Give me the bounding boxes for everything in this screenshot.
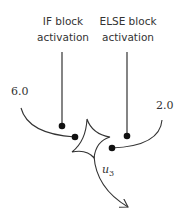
else-activation-line bbox=[124, 52, 131, 139]
right-input-edge bbox=[109, 120, 162, 151]
if-activation-line bbox=[59, 52, 66, 129]
left-input-dot bbox=[72, 134, 79, 141]
diagram-graphic bbox=[0, 0, 185, 222]
else-activation-dot bbox=[124, 133, 131, 140]
left-input-edge bbox=[21, 108, 78, 140]
output-arrow bbox=[94, 156, 128, 207]
if-activation-dot bbox=[59, 123, 66, 130]
right-input-dot bbox=[109, 145, 116, 152]
